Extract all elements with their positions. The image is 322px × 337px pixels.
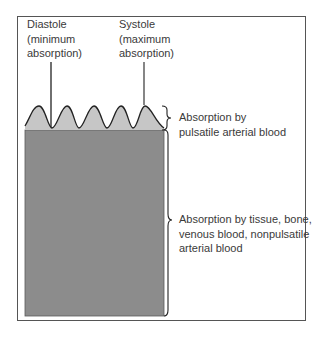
pulsatile-brace — [162, 106, 171, 130]
nonpulsatile-absorption-label: Absorption by tissue, bone, venous blood… — [179, 212, 312, 256]
pulsatile-absorption-label: Absorption by pulsatile arterial blood — [179, 110, 286, 139]
nonpulsatile-brace — [164, 130, 172, 316]
pulsatile-waveform — [25, 106, 164, 130]
systole-label: Systole (maximum absorption) — [119, 17, 174, 61]
nonpulsatile-absorption-block — [25, 130, 164, 316]
diastole-label: Diastole (minimum absorption) — [27, 17, 82, 61]
